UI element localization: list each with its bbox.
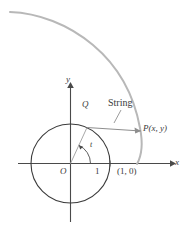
angle-label: t [90, 141, 92, 149]
string-label: String [108, 98, 132, 108]
y-axis [67, 82, 74, 222]
y-axis-label: y [66, 75, 70, 84]
origin-label: O [60, 167, 67, 176]
involute-curve [10, 12, 142, 164]
string-leader-line [114, 110, 121, 123]
x-axis-label: x [175, 158, 179, 167]
moving-point-label: P(x, y) [143, 124, 167, 133]
start-point-label: (1, 0) [117, 167, 137, 176]
string-segment-QP [87, 128, 141, 132]
involute-of-circle-figure: y x O 1 Q t String P(x, y) (1, 0) [0, 0, 185, 235]
unit-tick-label: 1 [95, 167, 100, 176]
figure-canvas [0, 0, 185, 235]
tangent-point-label: Q [82, 100, 89, 109]
